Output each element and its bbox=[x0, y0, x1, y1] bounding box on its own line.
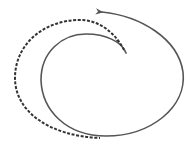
solid-spiral-arrow bbox=[41, 12, 183, 136]
spiral-diagram bbox=[0, 0, 192, 147]
